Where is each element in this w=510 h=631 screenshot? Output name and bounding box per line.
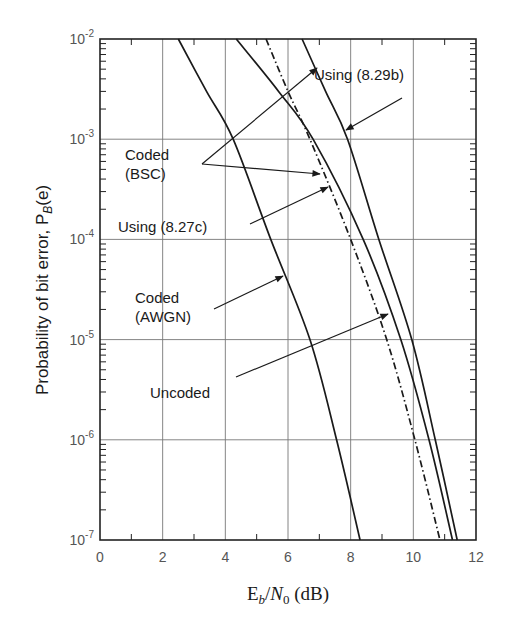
x-tick-labels: 024681012 <box>96 549 484 565</box>
annotation-label: Using (8.29b) <box>314 66 404 83</box>
y-tick-labels: 10-210-310-410-510-610-7 <box>70 28 95 548</box>
x-tick-label: 0 <box>96 549 104 565</box>
y-tick-label: 10-6 <box>70 429 95 448</box>
curve-coded-bsc-using-8-27c <box>236 39 452 540</box>
annotation-arrow <box>202 164 320 174</box>
y-tick-label: 10-3 <box>70 128 95 147</box>
y-tick-label: 10-7 <box>70 529 95 548</box>
y-axis-label: Probability of bit error, PB(e) <box>33 185 55 395</box>
annotation-label: (AWGN) <box>135 308 191 325</box>
annotation-arrow <box>214 276 283 309</box>
x-axis-label: Eb/N0 (dB) <box>247 583 329 607</box>
ber-chart: 024681012 10-210-310-410-510-610-7 Using… <box>0 0 510 631</box>
annotation-label: Coded <box>125 146 169 163</box>
curve-uncoded <box>178 39 360 540</box>
curves <box>178 39 457 540</box>
annotation-arrows <box>202 68 402 377</box>
annotation-arrow <box>250 187 328 224</box>
y-tick-label: 10-5 <box>70 329 95 348</box>
annotation-label: Using (8.27c) <box>118 218 207 235</box>
curve-coded-awgn <box>266 39 440 540</box>
annotation-arrow <box>346 98 402 130</box>
annotation-label: Coded <box>135 289 179 306</box>
annotation-label: (BSC) <box>125 165 166 182</box>
annotation-arrow <box>236 314 388 377</box>
x-tick-label: 4 <box>221 549 229 565</box>
x-tick-label: 2 <box>159 549 167 565</box>
y-tick-label: 10-2 <box>70 28 95 47</box>
x-tick-label: 12 <box>468 549 484 565</box>
annotation-label: Uncoded <box>150 384 210 401</box>
x-tick-label: 8 <box>347 549 355 565</box>
x-tick-label: 10 <box>406 549 422 565</box>
y-tick-label: 10-4 <box>70 228 95 247</box>
annotation-arrow <box>202 68 317 164</box>
x-tick-label: 6 <box>284 549 292 565</box>
curve-coded-bsc-using-8-29b <box>302 39 457 540</box>
